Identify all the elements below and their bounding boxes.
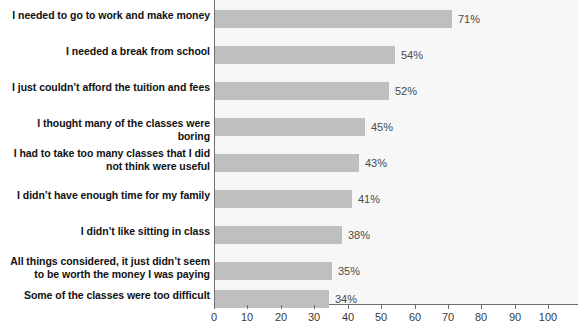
x-tick-mark (515, 305, 516, 309)
category-label: All things considered, it just didn’t se… (4, 255, 210, 280)
bar[interactable] (215, 10, 452, 28)
chart-row: I needed to go to work and make money 71… (0, 0, 578, 36)
bar[interactable] (215, 118, 365, 136)
x-tick-mark (281, 305, 282, 309)
x-tick-label: 20 (266, 311, 296, 324)
category-label: I just couldn’t afford the tuition and f… (4, 81, 210, 94)
x-tick-label: 10 (232, 311, 262, 324)
category-label: I needed to go to work and make money (4, 9, 210, 22)
x-tick-label: 90 (500, 311, 530, 324)
bar-value-label: 71% (458, 10, 480, 28)
category-label: Some of the classes were too difficult (4, 289, 210, 302)
bar[interactable] (215, 154, 359, 172)
category-label: I didn’t like sitting in class (4, 225, 210, 238)
x-tick-label: 30 (299, 311, 329, 324)
x-tick-label: 70 (433, 311, 463, 324)
category-label: I thought many of the classes were borin… (4, 117, 210, 142)
chart-row: I didn’t like sitting in class 38% (0, 216, 578, 252)
bar[interactable] (215, 46, 395, 64)
x-tick-mark (247, 305, 248, 309)
x-tick-label: 40 (333, 311, 363, 324)
bar[interactable] (215, 190, 352, 208)
bar-value-label: 52% (395, 82, 417, 100)
x-tick-mark (481, 305, 482, 309)
x-tick-mark (381, 305, 382, 309)
x-tick-label: 0 (199, 311, 229, 324)
bar-value-label: 34% (335, 290, 357, 308)
chart-row: I needed a break from school 54% (0, 36, 578, 72)
category-label: I didn’t have enough time for my family (4, 189, 210, 202)
bar-value-label: 35% (338, 262, 360, 280)
x-tick-label: 100 (533, 311, 563, 324)
bar-value-label: 45% (371, 118, 393, 136)
chart-row: I had to take too many classes that I di… (0, 144, 578, 180)
bar[interactable] (215, 262, 332, 280)
bar-value-label: 41% (358, 190, 380, 208)
x-tick-mark (548, 305, 549, 309)
bar[interactable] (215, 290, 329, 308)
x-tick-mark (314, 305, 315, 309)
x-tick-label: 50 (366, 311, 396, 324)
category-label: I needed a break from school (4, 45, 210, 58)
x-tick-mark (214, 305, 215, 309)
chart-row: I didn’t have enough time for my family … (0, 180, 578, 216)
chart-row: I thought many of the classes were borin… (0, 108, 578, 144)
chart-row: I just couldn’t afford the tuition and f… (0, 72, 578, 108)
category-label: I had to take too many classes that I di… (4, 147, 210, 172)
x-tick-label: 80 (466, 311, 496, 324)
bar[interactable] (215, 226, 342, 244)
bar-chart: I needed to go to work and make money 71… (0, 0, 578, 336)
x-tick-mark (348, 305, 349, 309)
bar-value-label: 43% (365, 154, 387, 172)
x-tick-mark (448, 305, 449, 309)
chart-row: All things considered, it just didn’t se… (0, 252, 578, 288)
x-tick-mark (415, 305, 416, 309)
bar-value-label: 38% (348, 226, 370, 244)
x-tick-label: 60 (400, 311, 430, 324)
bar[interactable] (215, 82, 389, 100)
bar-value-label: 54% (401, 46, 423, 64)
